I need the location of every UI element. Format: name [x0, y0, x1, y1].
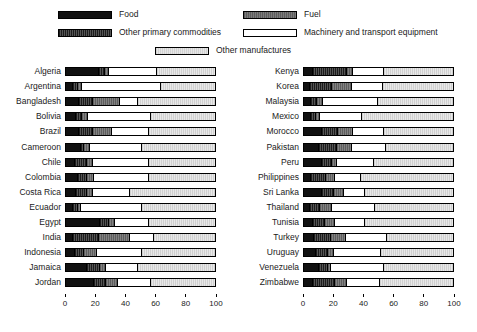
stacked-bar[interactable]	[303, 248, 454, 257]
stacked-bar[interactable]	[303, 233, 454, 242]
stacked-bar[interactable]	[303, 188, 454, 197]
bar-segment-other-manufactures	[380, 249, 453, 256]
stacked-bar[interactable]	[303, 112, 454, 121]
bar-row: Bangladesh	[2, 94, 224, 109]
bar-segment-other-manufactures	[137, 264, 215, 271]
bar-row: Uruguay	[240, 245, 462, 260]
stacked-bar[interactable]	[65, 248, 216, 257]
bar-row-label: Bolivia	[2, 112, 65, 121]
bar-segment-machinery	[352, 68, 384, 75]
stacked-bar[interactable]	[303, 173, 454, 182]
axis-tick-label: 0	[301, 299, 305, 308]
legend-entry-other-primary: Other primary commodities	[58, 28, 221, 37]
stacked-bar[interactable]	[65, 173, 216, 182]
axis-tick-label: 80	[181, 299, 190, 308]
stacked-bar[interactable]	[65, 127, 216, 136]
stacked-bar[interactable]	[303, 218, 454, 227]
bar-segment-other-manufactures	[364, 219, 453, 226]
bar-segment-other-manufactures	[148, 219, 215, 226]
bar-row: Bolivia	[2, 109, 224, 124]
stacked-bar[interactable]	[303, 127, 454, 136]
bar-row-label: Turkey	[240, 233, 303, 242]
stacked-bar[interactable]	[303, 82, 454, 91]
bar-segment-fuel	[98, 234, 130, 241]
bar-row: Morocco	[240, 124, 462, 139]
bar-row-label: Colombia	[2, 173, 65, 182]
stacked-bar[interactable]	[65, 112, 216, 121]
bar-row-label: Brazil	[2, 127, 65, 136]
bar-row-label: Sri Lanka	[240, 188, 303, 197]
stacked-bar[interactable]	[303, 67, 454, 76]
stacked-bar[interactable]	[65, 97, 216, 106]
bar-row: Turkey	[240, 230, 462, 245]
axis-tick	[363, 294, 364, 297]
bar-row-label: Argentina	[2, 82, 65, 91]
axis-tick	[333, 294, 334, 297]
chart-panel-right: KenyaKoreaMalaysiaMexicoMoroccoPakistanP…	[240, 62, 462, 330]
bar-segment-food	[66, 219, 100, 226]
bar-row-label: Tunisia	[240, 218, 303, 227]
axis-tick	[95, 294, 96, 297]
bar-segment-machinery	[92, 189, 130, 196]
bar-segment-other-primary	[86, 264, 100, 271]
bar-segment-other-manufactures	[156, 68, 215, 75]
axis-tick	[125, 294, 126, 297]
bar-row-label: Thailand	[240, 203, 303, 212]
bar-row: Colombia	[2, 170, 224, 185]
bar-segment-machinery	[336, 159, 374, 166]
bar-row: Peru	[240, 155, 462, 170]
bar-row-label: Philippines	[240, 173, 303, 182]
axis-tick-label: 100	[447, 299, 460, 308]
bar-segment-other-manufactures	[373, 159, 453, 166]
stacked-bar[interactable]	[303, 263, 454, 272]
stacked-bar[interactable]	[65, 233, 216, 242]
bar-segment-other-primary	[318, 144, 337, 151]
bar-row: Ecuador	[2, 200, 224, 215]
bar-segment-machinery	[331, 204, 375, 211]
stacked-bar[interactable]	[65, 82, 216, 91]
stacked-bar[interactable]	[303, 97, 454, 106]
stacked-bar[interactable]	[65, 158, 216, 167]
bar-row-label: Algeria	[2, 67, 65, 76]
stacked-bar[interactable]	[65, 188, 216, 197]
axis-tick-label: 20	[329, 299, 338, 308]
stacked-bar[interactable]	[303, 278, 454, 287]
bar-row-label: Costa Rica	[2, 188, 65, 197]
bar-segment-machinery	[80, 204, 142, 211]
stacked-bar[interactable]	[303, 158, 454, 167]
stacked-bar[interactable]	[303, 203, 454, 212]
stacked-bar[interactable]	[65, 203, 216, 212]
stacked-bar[interactable]	[65, 278, 216, 287]
bar-row: Mexico	[240, 109, 462, 124]
bar-row-label: Jamaica	[2, 263, 65, 272]
axis-tick	[423, 294, 424, 297]
bar-row: Thailand	[240, 200, 462, 215]
bar-row: Argentina	[2, 79, 224, 94]
legend-swatch-other-manufactures-icon	[155, 47, 209, 55]
bar-segment-other-manufactures	[148, 174, 215, 181]
stacked-bar[interactable]	[303, 143, 454, 152]
stacked-bar[interactable]	[65, 67, 216, 76]
axis-tick-label: 20	[91, 299, 100, 308]
bar-row-label: Cameroon	[2, 143, 65, 152]
bar-segment-food	[66, 128, 79, 135]
bar-segment-other-primary	[78, 98, 92, 105]
axis-tick-label: 0	[63, 299, 67, 308]
bar-segment-other-manufactures	[383, 264, 453, 271]
bar-row-label: Ecuador	[2, 203, 65, 212]
bar-segment-other-manufactures	[129, 189, 215, 196]
stacked-bar[interactable]	[65, 263, 216, 272]
bar-row: Zimbabwe	[240, 275, 462, 290]
x-axis-right: 020406080100	[303, 294, 454, 320]
bar-row: Pakistan	[240, 139, 462, 154]
stacked-bar[interactable]	[65, 218, 216, 227]
bar-row-label: Zimbabwe	[240, 278, 303, 287]
bar-segment-fuel	[330, 234, 346, 241]
bar-segment-machinery	[129, 234, 154, 241]
stacked-bar[interactable]	[65, 143, 216, 152]
chart-panel-left: AlgeriaArgentinaBangladeshBoliviaBrazilC…	[2, 62, 224, 330]
x-axis-left: 020406080100	[65, 294, 216, 320]
axis-tick	[185, 294, 186, 297]
bar-row-label: Pakistan	[240, 143, 303, 152]
legend-label-food: Food	[119, 10, 138, 19]
